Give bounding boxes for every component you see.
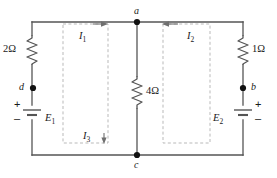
resistor-center-symbol — [132, 76, 142, 109]
resistor-right-symbol — [238, 35, 248, 65]
node-dot-c — [134, 152, 140, 158]
current-i3-label: I3 — [83, 131, 90, 144]
node-label-d: d — [19, 82, 24, 92]
source-e2-plus-sign: + — [255, 99, 261, 110]
resistor-center-label: 4Ω — [146, 86, 159, 97]
resistor-left-label: 2Ω — [3, 44, 16, 55]
node-dot-b — [240, 85, 246, 91]
source-e2-label: E2 — [213, 113, 223, 126]
resistor-left-symbol — [27, 35, 37, 65]
source-e1-subscript: 1 — [51, 117, 55, 126]
source-e2-minus-sign: – — [255, 113, 261, 124]
resistor-right-label: 1Ω — [252, 44, 265, 55]
node-label-c: c — [134, 160, 138, 170]
circuit-diagram-canvas: a b c d 2Ω 4Ω 1Ω E1 + – E2 + – I1 I2 I3 — [0, 0, 277, 178]
loop-2-label: I2 — [187, 31, 194, 44]
loop-1-label: I1 — [79, 31, 86, 44]
current-i3-subscript: 3 — [87, 135, 91, 144]
source-e1-label: E1 — [45, 113, 55, 126]
node-dot-d — [30, 85, 36, 91]
node-dot-a — [134, 19, 140, 25]
junction-dots — [30, 19, 246, 158]
current-i3-arrow-icon — [101, 133, 106, 144]
loop-2-subscript: 2 — [191, 35, 195, 44]
battery-e2-symbol — [234, 110, 252, 115]
source-e1-minus-sign: – — [14, 113, 20, 124]
battery-e1-symbol — [23, 110, 41, 115]
source-e2-subscript: 2 — [219, 117, 223, 126]
circuit-schematic — [0, 0, 277, 178]
source-e1-plus-sign: + — [14, 99, 20, 110]
node-label-a: a — [134, 6, 139, 16]
node-label-b: b — [251, 82, 256, 92]
loop-1-subscript: 1 — [83, 35, 87, 44]
